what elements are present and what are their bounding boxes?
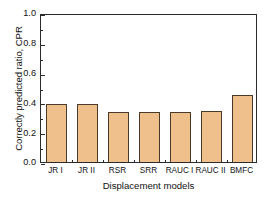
bar-chart-figure: Correctly predicted ratio, CPR 0.00.20.4…: [0, 0, 273, 199]
bar: [232, 95, 254, 162]
y-axis-tick-label: 0.8: [14, 39, 36, 48]
x-axis-tick-label: RAUC I: [164, 166, 195, 176]
y-axis-tick-label: 0.4: [14, 99, 36, 108]
x-axis-tick-label: SRR: [133, 166, 164, 176]
bar: [201, 111, 223, 162]
y-axis-tick-labels: 0.00.20.40.60.81.0: [14, 0, 36, 199]
bar: [139, 112, 161, 162]
x-axis-tick-label: JR II: [71, 166, 102, 176]
y-axis-tick-mark: [41, 164, 45, 165]
y-axis-tick-label: 0.6: [14, 69, 36, 78]
bar: [77, 104, 99, 162]
x-axis-title: Displacement models: [40, 180, 257, 191]
x-axis-tick-labels: JR IJR IIRSRSRRRAUC IRAUC IIBMFC: [40, 166, 257, 178]
x-axis-tick-label: RSR: [102, 166, 133, 176]
y-axis-tick-label: 0.2: [14, 129, 36, 138]
x-axis-tick-label: RAUC II: [195, 166, 226, 176]
x-axis-tick-label: BMFC: [226, 166, 257, 176]
bar: [108, 112, 130, 162]
bar: [170, 112, 192, 162]
bar: [46, 104, 68, 162]
x-axis-tick-label: JR I: [40, 166, 71, 176]
plot-area: [40, 14, 257, 163]
bar-series: [41, 15, 256, 162]
y-axis-tick-label: 1.0: [14, 9, 36, 18]
y-axis-tick-label: 0.0: [14, 158, 36, 167]
